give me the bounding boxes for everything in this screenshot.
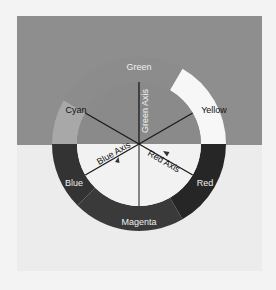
- color-wheel-diagram: Green Yellow Red Magenta Blue Cyan Green…: [0, 0, 276, 290]
- label-blue: Blue: [65, 178, 83, 188]
- label-red: Red: [197, 178, 214, 188]
- label-green-axis: Green Axis: [140, 88, 150, 133]
- label-yellow: Yellow: [201, 105, 227, 115]
- label-green: Green: [126, 62, 151, 72]
- label-magenta: Magenta: [121, 217, 156, 227]
- label-cyan: Cyan: [65, 105, 86, 115]
